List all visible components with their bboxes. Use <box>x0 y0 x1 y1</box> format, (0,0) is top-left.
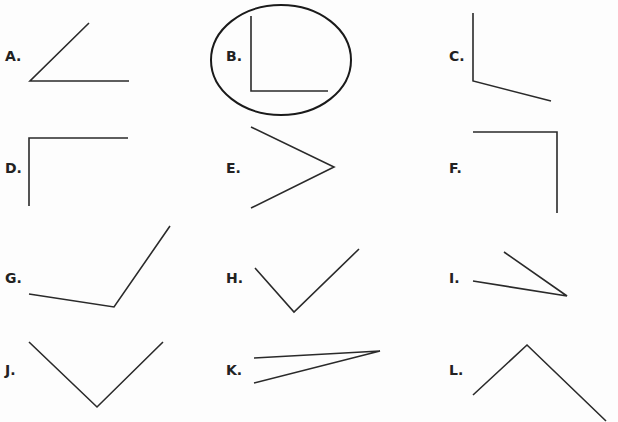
angle-figure-d <box>29 138 128 206</box>
option-label-c[interactable]: C. <box>449 48 465 64</box>
option-label-f[interactable]: F. <box>449 160 462 176</box>
option-label-e[interactable]: E. <box>226 160 241 176</box>
angle-figure-a <box>30 23 129 81</box>
angle-figure-e <box>251 127 334 208</box>
angle-figure-k <box>254 351 380 383</box>
option-label-b[interactable]: B. <box>226 48 242 64</box>
angle-figure-f <box>473 132 557 213</box>
angle-figure-g <box>29 226 170 307</box>
angle-figures <box>0 0 618 422</box>
angle-figure-c <box>473 13 551 101</box>
option-label-g[interactable]: G. <box>5 270 22 286</box>
angle-figure-i <box>473 252 567 296</box>
option-label-j[interactable]: J. <box>5 362 16 378</box>
option-label-k[interactable]: K. <box>226 362 242 378</box>
option-label-a[interactable]: A. <box>5 48 21 64</box>
option-label-l[interactable]: L. <box>449 362 463 378</box>
angle-options-diagram: A.B.C.D.E.F.G.H.I.J.K.L. <box>0 0 618 422</box>
angle-figure-j <box>29 342 163 407</box>
option-label-i[interactable]: I. <box>449 270 460 286</box>
angle-figure-b <box>251 16 328 91</box>
angle-figure-l <box>473 345 606 421</box>
option-label-h[interactable]: H. <box>226 270 243 286</box>
angle-figure-h <box>255 249 359 312</box>
option-label-d[interactable]: D. <box>5 160 22 176</box>
